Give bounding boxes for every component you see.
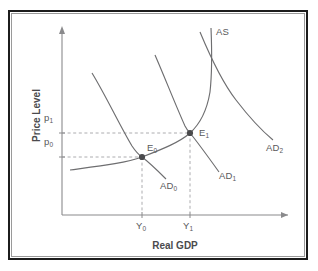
curve-label-as-base: AS xyxy=(216,26,229,37)
x-tick-label-y1: Y1 xyxy=(183,220,193,231)
x-tick-label-y0: Y0 xyxy=(136,220,146,231)
curve-label-ad0: AD0 xyxy=(160,180,177,191)
equilibrium-label-E1-base: E xyxy=(199,127,206,138)
y-tick-label-p0: p0 xyxy=(44,136,53,147)
curve-ad1 xyxy=(155,55,219,172)
x-tick-label-y0-base: Y xyxy=(136,220,143,231)
curve-ad0 xyxy=(92,73,166,179)
curve-label-ad1-base: AD xyxy=(219,170,233,181)
y-tick-label-p1: p1 xyxy=(44,112,53,123)
y-axis-title: Price Level xyxy=(31,60,42,172)
equilibrium-label-E0-sub: 0 xyxy=(154,147,158,154)
curve-as xyxy=(70,28,212,170)
y-axis-arrow xyxy=(59,26,65,34)
marker-E0 xyxy=(139,154,145,160)
x-tick-label-y1-base: Y xyxy=(183,220,190,231)
curve-label-ad2: AD2 xyxy=(266,142,283,153)
y-tick-label-p1-sub: 1 xyxy=(49,117,53,124)
marker-E1 xyxy=(187,130,193,136)
curve-label-ad0-sub: 0 xyxy=(174,185,178,192)
x-axis-arrow xyxy=(281,212,288,218)
ad-as-figure: Price Level Real GDP p1 p0 Y0 Y1 E0 E1 A… xyxy=(0,0,318,271)
x-axis-title: Real GDP xyxy=(120,240,230,251)
equilibrium-label-E1: E1 xyxy=(199,127,209,138)
y-tick-label-p0-sub: 0 xyxy=(49,141,53,148)
curve-label-ad2-base: AD xyxy=(266,142,280,153)
x-tick-label-y0-sub: 0 xyxy=(143,225,147,232)
equilibrium-label-E0: E0 xyxy=(147,142,157,153)
curve-label-ad2-sub: 2 xyxy=(280,147,284,154)
x-tick-label-y1-sub: 1 xyxy=(190,225,194,232)
curve-label-ad0-base: AD xyxy=(160,180,174,191)
equilibrium-label-E1-sub: 1 xyxy=(206,132,210,139)
curve-label-as: AS xyxy=(216,26,229,37)
curve-label-ad1: AD1 xyxy=(219,170,236,181)
curve-label-ad1-sub: 1 xyxy=(233,175,237,182)
equilibrium-label-E0-base: E xyxy=(147,142,154,153)
